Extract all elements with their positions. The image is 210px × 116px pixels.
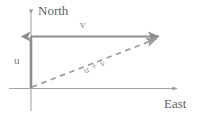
vector-addition-figure: North East u v u + v — [0, 0, 210, 116]
vector-u-label: u — [14, 55, 20, 66]
east-axis-label: East — [164, 97, 186, 110]
vector-v-label: v — [80, 19, 86, 30]
north-axis-label: North — [38, 4, 68, 17]
